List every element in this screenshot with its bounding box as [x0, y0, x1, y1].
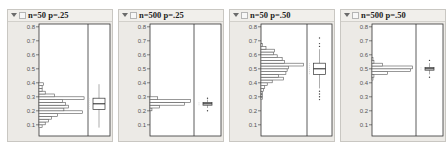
- histogram-bar: [261, 94, 262, 97]
- y-tick-label: 0.2: [138, 108, 147, 114]
- histogram-bar: [261, 97, 262, 100]
- histogram-bar: [261, 91, 262, 94]
- histogram-bar: [261, 83, 267, 86]
- y-tick-label: 0.3: [27, 94, 36, 100]
- y-tick-label: 0.3: [249, 94, 258, 100]
- plot-frame: [150, 24, 221, 136]
- distribution-plot: 0.10.20.30.40.50.60.70.8: [230, 22, 334, 142]
- histogram-bar: [261, 69, 287, 72]
- y-tick-label: 0.7: [27, 38, 36, 44]
- histogram-bar: [261, 88, 263, 91]
- distribution-plot: 0.10.20.30.40.50.60.70.8: [8, 22, 112, 142]
- histogram-bar: [372, 60, 374, 63]
- histogram-bar: [261, 77, 283, 80]
- chart-panel: n=500 p=.500.10.20.30.40.50.60.70.8: [340, 9, 446, 142]
- histogram-bar: [39, 97, 84, 100]
- y-tick-label: 0.5: [27, 66, 36, 72]
- histogram-bar: [39, 114, 58, 117]
- y-tick-label: 0.6: [27, 52, 36, 58]
- outlier-point: [319, 91, 320, 92]
- panel-header: n=500 p=.25: [119, 10, 223, 22]
- histogram-bar: [261, 60, 285, 63]
- y-tick-label: 0.2: [360, 108, 369, 114]
- panel-header: n=500 p=.50: [341, 10, 445, 22]
- y-tick-label: 0.1: [360, 122, 369, 128]
- y-tick-label: 0.4: [360, 80, 369, 86]
- collapse-box-icon[interactable]: [241, 12, 248, 19]
- disclosure-triangle-icon[interactable]: [233, 13, 239, 17]
- y-tick-label: 0.7: [138, 38, 147, 44]
- histogram-bar: [150, 108, 152, 111]
- histogram-bar: [372, 72, 387, 75]
- y-tick-label: 0.4: [138, 80, 147, 86]
- histogram-bar: [261, 63, 303, 66]
- outlier-point: [207, 98, 208, 99]
- histogram-bar: [39, 83, 44, 86]
- histogram-bar: [39, 86, 42, 89]
- panel-header: n=50 p=.50: [230, 10, 334, 22]
- histogram-bar: [39, 100, 62, 103]
- disclosure-triangle-icon[interactable]: [11, 13, 17, 17]
- y-tick-label: 0.8: [138, 24, 147, 30]
- plot-frame: [372, 24, 443, 136]
- collapse-box-icon[interactable]: [19, 12, 26, 19]
- histogram-bar: [39, 119, 48, 122]
- y-tick-label: 0.8: [249, 24, 258, 30]
- y-tick-label: 0.8: [360, 24, 369, 30]
- panel-title: n=50 p=.50: [250, 10, 290, 21]
- y-tick-label: 0.8: [27, 24, 36, 30]
- histogram-bar: [39, 122, 45, 125]
- histogram-bar: [39, 94, 55, 97]
- y-tick-label: 0.1: [27, 122, 36, 128]
- outlier-point: [207, 110, 208, 111]
- histogram-bar: [150, 97, 158, 100]
- histogram-bar: [261, 74, 278, 77]
- histogram-bar: [261, 52, 273, 55]
- panel-title: n=500 p=.25: [139, 10, 184, 21]
- histogram-bar: [372, 77, 373, 80]
- chart-panel: n=50 p=.250.10.20.30.40.50.60.70.8: [7, 9, 113, 142]
- collapse-box-icon[interactable]: [130, 12, 137, 19]
- chart-panel: n=50 p=.500.10.20.30.40.50.60.70.8: [229, 9, 335, 142]
- histogram-bar: [39, 88, 42, 91]
- histogram-bar: [372, 69, 411, 72]
- y-tick-label: 0.6: [249, 52, 258, 58]
- disclosure-triangle-icon[interactable]: [122, 13, 128, 17]
- histogram-bar: [261, 80, 272, 83]
- histogram-bar: [261, 66, 288, 69]
- panel-title: n=50 p=.25: [28, 10, 68, 21]
- histogram-bar: [261, 46, 266, 49]
- histogram-bar: [150, 105, 160, 108]
- y-tick-label: 0.6: [360, 52, 369, 58]
- y-tick-label: 0.3: [360, 94, 369, 100]
- y-tick-label: 0.2: [27, 108, 36, 114]
- histogram-bar: [261, 58, 282, 61]
- histogram-bar: [372, 58, 373, 61]
- collapse-box-icon[interactable]: [352, 12, 359, 19]
- y-tick-label: 0.5: [249, 66, 258, 72]
- histogram-bar: [150, 102, 185, 105]
- histogram-bar: [372, 66, 412, 69]
- histogram-bar: [261, 72, 286, 75]
- y-tick-label: 0.4: [27, 80, 36, 86]
- histogram-bar: [372, 63, 383, 66]
- y-tick-label: 0.7: [249, 38, 258, 44]
- histogram-bar: [39, 91, 45, 94]
- histogram-bar: [39, 116, 51, 119]
- histogram-bar: [261, 49, 275, 52]
- outlier-point: [319, 93, 320, 94]
- y-tick-label: 0.5: [138, 66, 147, 72]
- histogram-bar: [261, 86, 265, 89]
- distribution-plot: 0.10.20.30.40.50.60.70.8: [119, 22, 223, 142]
- histogram-bar: [39, 105, 69, 108]
- y-tick-label: 0.5: [360, 66, 369, 72]
- histogram-bar: [39, 125, 42, 128]
- outlier-point: [319, 99, 320, 100]
- outlier-point: [319, 43, 320, 44]
- y-tick-label: 0.1: [138, 122, 147, 128]
- y-tick-label: 0.3: [138, 94, 147, 100]
- disclosure-triangle-icon[interactable]: [344, 13, 350, 17]
- y-tick-label: 0.6: [138, 52, 147, 58]
- histogram-bar: [261, 44, 262, 47]
- chart-panel: n=500 p=.250.10.20.30.40.50.60.70.8: [118, 9, 224, 142]
